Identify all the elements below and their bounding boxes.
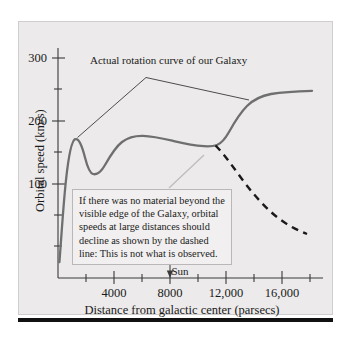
x-tick-label-8000: 8000 <box>140 286 200 300</box>
y-tick-label-300: 300 <box>13 51 47 65</box>
y-axis-title: Orbital speed (km/s) <box>33 109 47 212</box>
x-tick-label-4000: 4000 <box>84 286 144 300</box>
x-tick-label-12000: 12,000 <box>196 286 256 300</box>
sun-label: Sun <box>157 265 203 277</box>
x-axis-title: Distance from galactic center (parsecs) <box>82 303 282 317</box>
curve-label-leader-line-2 <box>146 78 249 101</box>
callout-leader-line <box>169 155 204 188</box>
figure-panel: 300 200 100 4000 8000 12,000 16,000 Dist… <box>18 21 333 315</box>
chart-plot-area: 300 200 100 4000 8000 12,000 16,000 Dist… <box>19 22 334 316</box>
actual-rotation-curve-label: Actual rotation curve of our Galaxy <box>90 54 247 67</box>
curve-label-leader-line <box>78 78 147 138</box>
x-tick-label-16000: 16,000 <box>252 286 312 300</box>
dark-matter-callout-box: If there was no material beyond the visi… <box>72 189 232 265</box>
figure-bottom-rule <box>18 318 333 322</box>
